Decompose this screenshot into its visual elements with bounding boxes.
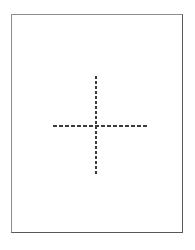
figure-canvas: [0, 0, 195, 250]
dashed-horizontal-axis-line: [53, 125, 148, 127]
plot-area: [12, 15, 182, 232]
crosshair-center-marker: [95, 125, 97, 127]
page-frame-border: [11, 14, 183, 233]
